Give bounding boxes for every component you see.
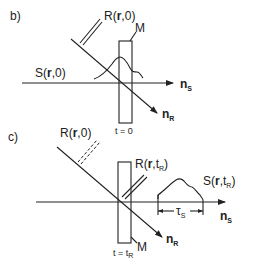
panel-c-duration-label: τS [176,204,186,219]
panel-c-past-wavefront [78,140,97,162]
panel-c-reference-label: R(r,tR) [135,157,168,172]
panel-c-reference-wavefront-2 [125,177,147,199]
panel-b-signal-label: S(r,0) [35,66,66,80]
panel-c-axis-s-label: nS [220,209,232,224]
panel-b-reference-wavefront-2 [83,22,102,45]
panel-c-signal-pulse [158,179,203,200]
panel-c-past-reference-label: R(r,0) [60,126,91,140]
panel-b-axis-r-label: nR [162,107,174,122]
panel-c-label: c) [8,130,18,144]
panel-c-time-label: t = tR [113,248,133,259]
panel-c-duration-arrowhead-left [158,209,163,213]
panel-c-mirror-label: M [137,240,147,254]
panel-c-reference-wavefront [122,175,144,197]
panel-b-mirror-label: M [135,21,145,35]
panel-b-axis-r [71,39,157,113]
panel-b-axis-s-label: nS [180,77,192,92]
panel-b-reference-wavefront [80,19,100,43]
panel-b-time-label: t = 0 [115,126,133,136]
panel-c: c) nS nR R(r,0) R(r,tR) M t = tR τS S(r,… [8,126,235,259]
panel-b-reference-label: R(r,0) [104,9,135,23]
panel-c-signal-label: S(r,tR) [203,174,235,189]
panel-c-past-wavefront-2 [81,142,100,164]
diagram: b) nS nR R(r,0) M t = 0 S(r,0) c) nS nR … [0,0,259,269]
panel-c-axis-r-label: nR [166,232,178,247]
panel-b: b) nS nR R(r,0) M t = 0 S(r,0) [10,9,192,136]
panel-b-label: b) [10,9,21,23]
panel-c-duration-arrowhead-right [198,209,203,213]
